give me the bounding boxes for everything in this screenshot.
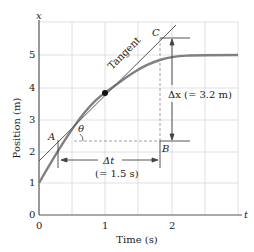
y-tick-labels: 0 1 2 3 4 5 — [29, 49, 35, 220]
x-axis-symbol: t — [244, 209, 249, 220]
y-tick: 2 — [29, 146, 35, 157]
point-b-label: B — [161, 143, 169, 154]
delta-t-label: Δt — [102, 155, 115, 166]
axes — [39, 20, 242, 215]
y-tick: 0 — [29, 209, 35, 220]
y-axis-label: Position (m) — [11, 98, 22, 159]
delta-t-value: (= 1.5 s) — [95, 168, 139, 179]
tangent-label: Tangent — [106, 35, 143, 72]
x-tick: 0 — [36, 220, 42, 231]
y-tick: 4 — [29, 82, 35, 93]
x-axis-label: Time (s) — [116, 234, 157, 245]
marked-point — [102, 90, 108, 96]
grid — [39, 22, 238, 215]
y-axis-symbol: x — [36, 10, 42, 21]
y-tick: 3 — [29, 114, 35, 125]
position-time-chart: x t 0 1 2 3 4 5 0 1 2 Time (s) Position … — [0, 0, 254, 252]
x-tick: 2 — [169, 220, 175, 231]
x-tick-labels: 0 1 2 — [36, 220, 175, 231]
angle-theta-label: θ — [78, 123, 84, 134]
delta-x-label: Δx (= 3.2 m) — [168, 89, 232, 100]
position-curve — [39, 55, 238, 183]
x-tick: 1 — [102, 220, 108, 231]
y-tick: 5 — [29, 49, 35, 60]
point-a-label: A — [47, 131, 55, 142]
point-c-label: C — [152, 27, 160, 38]
angle-arc — [80, 134, 83, 141]
y-tick: 1 — [29, 177, 35, 188]
